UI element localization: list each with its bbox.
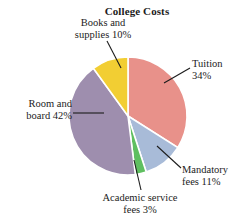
pie-label-tuition-line2: 34%	[192, 70, 223, 82]
pie-label-mandatory-fees-line2: fees 11%	[182, 176, 228, 188]
pie-chart-figure: College Costs Books and supplies 10% Tui…	[0, 0, 248, 223]
pie-label-books-and-supplies-line1: Books and	[60, 17, 146, 29]
pie-label-academic-service-fees-line1: Academic service	[88, 192, 192, 204]
pie-label-books-and-supplies-line2: supplies 10%	[60, 29, 146, 41]
pie-label-room-and-board-line1: Room and	[2, 98, 72, 110]
pie-label-mandatory-fees-line1: Mandatory	[182, 164, 228, 176]
pie-label-academic-service-fees: Academic service fees 3%	[88, 192, 192, 215]
pie-label-mandatory-fees: Mandatory fees 11%	[182, 164, 228, 187]
pie-label-room-and-board-line2: board 42%	[2, 110, 72, 122]
pie-label-tuition: Tuition 34%	[192, 58, 223, 81]
pie-label-tuition-line1: Tuition	[192, 58, 223, 70]
pie-label-books-and-supplies: Books and supplies 10%	[60, 17, 146, 40]
pie-label-room-and-board: Room and board 42%	[2, 98, 72, 121]
pie-label-academic-service-fees-line2: fees 3%	[88, 204, 192, 216]
